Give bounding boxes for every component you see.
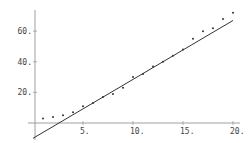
data-point — [182, 49, 184, 51]
x-tick-label: 15. — [180, 127, 194, 136]
data-point — [222, 18, 224, 20]
data-point — [192, 38, 194, 40]
data-point — [92, 102, 94, 104]
x-tick-label: 10. — [130, 127, 144, 136]
axes — [28, 10, 240, 140]
data-point — [52, 116, 54, 118]
data-point — [122, 87, 124, 89]
data-point — [42, 117, 44, 119]
data-point — [132, 76, 134, 78]
scatter-plot-with-fit: 5.10.15.20.20.40.60. — [0, 0, 251, 143]
x-tick-label: 5. — [80, 127, 90, 136]
data-point — [102, 96, 104, 98]
x-tick-label: 20. — [230, 127, 244, 136]
data-point — [232, 12, 234, 14]
data-point — [142, 73, 144, 75]
data-point — [152, 65, 154, 67]
data-point — [202, 30, 204, 32]
data-point — [82, 105, 84, 107]
tick-labels: 5.10.15.20.20.40.60. — [18, 27, 245, 136]
y-tick-label: 20. — [18, 88, 32, 97]
data-point — [212, 27, 214, 29]
data-point — [172, 55, 174, 57]
y-tick-label: 40. — [18, 58, 32, 67]
data-point — [162, 61, 164, 63]
data-point — [112, 93, 114, 95]
data-point — [62, 114, 64, 116]
data-points — [42, 12, 234, 120]
fit-line — [33, 20, 233, 138]
y-tick-label: 60. — [18, 27, 32, 36]
data-point — [72, 111, 74, 113]
